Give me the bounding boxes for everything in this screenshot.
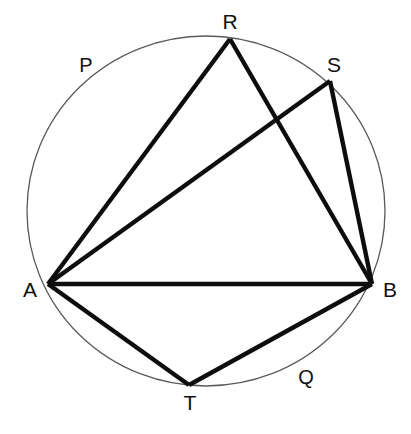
chord-r-b	[230, 39, 372, 284]
vertex-label-a: A	[23, 278, 37, 301]
chord-s-b	[330, 81, 372, 284]
chord-a-t	[48, 284, 189, 385]
vertex-label-s: S	[327, 53, 341, 76]
geometry-canvas: A B R S T P Q	[0, 0, 411, 434]
arc-label-p: P	[79, 54, 92, 76]
vertex-label-b: B	[383, 278, 397, 301]
chord-a-s	[48, 81, 330, 284]
vertex-label-r: R	[222, 10, 237, 33]
arc-label-q: Q	[298, 366, 314, 388]
chord-a-r	[48, 39, 230, 284]
vertex-label-t: T	[184, 391, 197, 414]
chord-lines-group	[48, 39, 372, 385]
geometry-figure: A B R S T P Q	[0, 0, 411, 434]
